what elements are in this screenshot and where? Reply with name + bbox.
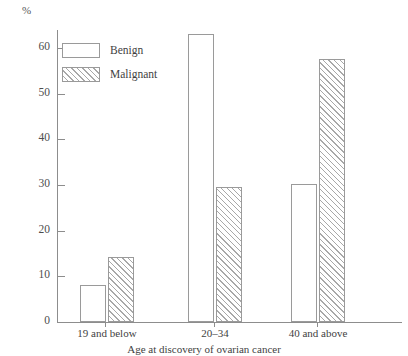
y-tick-label: 40 [14, 131, 50, 143]
legend-label-malignant: Malignant [110, 68, 157, 80]
x-group-label: 19 and below [57, 327, 157, 339]
bar-malignant [319, 59, 345, 322]
y-tick-label: 50 [14, 86, 50, 98]
bar-benign [188, 34, 214, 322]
y-tick [58, 276, 65, 277]
y-tick [58, 231, 65, 232]
y-tick-label: 20 [14, 223, 50, 235]
legend-item-benign: Benign [62, 40, 157, 60]
bar-chart: % 0102030405060 19 and below20–3440 and … [0, 0, 408, 356]
y-axis-line [57, 30, 58, 323]
legend-swatch-benign [62, 43, 100, 58]
y-tick-label: 60 [14, 40, 50, 52]
x-axis-line [57, 322, 402, 323]
legend-swatch-malignant [62, 67, 100, 82]
x-group-label: 40 and above [268, 327, 368, 339]
x-axis-title: Age at discovery of ovarian cancer [0, 343, 408, 355]
y-tick [58, 185, 65, 186]
bar-malignant [216, 187, 242, 322]
bar-benign [80, 285, 106, 322]
y-tick-label: 30 [14, 177, 50, 189]
legend-item-malignant: Malignant [62, 64, 157, 84]
y-tick [58, 139, 65, 140]
y-tick [58, 94, 65, 95]
y-tick-label: 0 [14, 314, 50, 326]
bar-malignant [108, 257, 134, 322]
y-axis-unit-label: % [22, 4, 31, 16]
bar-benign [291, 184, 317, 322]
legend-label-benign: Benign [110, 44, 143, 56]
y-tick [58, 322, 65, 323]
chart-legend: Benign Malignant [62, 40, 157, 88]
x-group-label: 20–34 [165, 327, 265, 339]
y-tick-label: 10 [14, 268, 50, 280]
